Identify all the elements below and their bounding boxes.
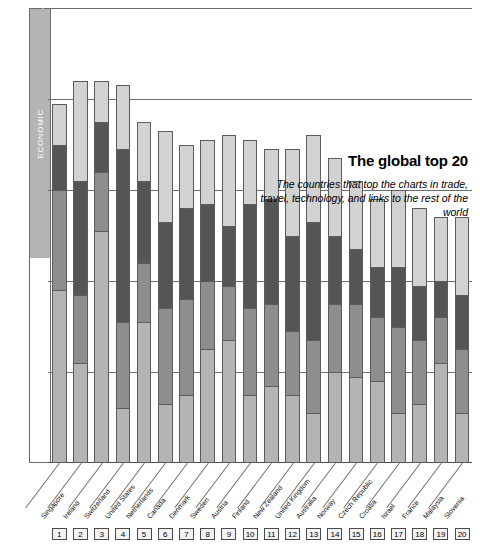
bar-israel bbox=[391, 8, 406, 463]
bar-segment-economic bbox=[328, 372, 343, 463]
rank-badge: 10 bbox=[243, 528, 258, 540]
country-label: Slovenia bbox=[443, 495, 466, 520]
bar-segment-economic bbox=[222, 340, 237, 463]
bar-segment-personal bbox=[222, 286, 237, 341]
country-label: Denmark bbox=[167, 494, 191, 520]
rank-badge: 11 bbox=[264, 528, 279, 540]
bar-segment-personal bbox=[412, 340, 427, 404]
rank-badge: 1 bbox=[52, 528, 67, 540]
bar-czech-republic bbox=[349, 8, 364, 463]
bar-segment-political bbox=[137, 122, 152, 181]
bar-segment-political bbox=[158, 131, 173, 222]
bar-switzerland bbox=[94, 8, 109, 463]
bar-slovenia bbox=[455, 8, 470, 463]
global-top-20-chart: POLITICALTECHNOLOGICALPERSONALECONOMIC S… bbox=[0, 0, 480, 549]
bar-segment-personal bbox=[285, 331, 300, 395]
rank-badge: 17 bbox=[391, 528, 406, 540]
rank-badge: 12 bbox=[285, 528, 300, 540]
bar-australia bbox=[306, 8, 321, 463]
bar-segment-political bbox=[73, 81, 88, 181]
bar-malaysia bbox=[434, 8, 449, 463]
rank-badge: 3 bbox=[94, 528, 109, 540]
bar-segment-personal bbox=[455, 349, 470, 413]
rank-badge: 14 bbox=[327, 528, 342, 540]
bar-singapore bbox=[52, 8, 67, 463]
country-label: Malaysia bbox=[422, 494, 445, 520]
bar-segment-economic bbox=[285, 395, 300, 463]
bar-segment-economic bbox=[158, 404, 173, 463]
rank-badge: 8 bbox=[200, 528, 215, 540]
bar-new-zealand bbox=[264, 8, 279, 463]
bar-segment-political bbox=[412, 208, 427, 285]
bar-segment-personal bbox=[434, 317, 449, 363]
bar-segment-economic bbox=[52, 290, 67, 463]
bar-segment-economic bbox=[434, 363, 449, 463]
country-label: Sweden bbox=[188, 496, 210, 520]
bar-sweden bbox=[200, 8, 215, 463]
bar-finland bbox=[243, 8, 258, 463]
bar-segment-personal bbox=[243, 308, 258, 394]
bar-segment-technological bbox=[222, 226, 237, 285]
bar-segment-technological bbox=[52, 145, 67, 191]
bar-segment-technological bbox=[412, 286, 427, 341]
bar-segment-economic bbox=[137, 322, 152, 463]
bar-segment-technological bbox=[137, 181, 152, 263]
rank-badge: 13 bbox=[306, 528, 321, 540]
bar-segment-economic bbox=[391, 413, 406, 463]
rank-badge: 9 bbox=[221, 528, 236, 540]
bar-segment-economic bbox=[94, 231, 109, 463]
bar-segment-political bbox=[52, 104, 67, 145]
bar-segment-personal bbox=[94, 172, 109, 231]
bar-segment-technological bbox=[328, 236, 343, 304]
bar-segment-technological bbox=[370, 267, 385, 317]
bar-segment-economic bbox=[73, 363, 88, 463]
bar-segment-personal bbox=[116, 322, 131, 408]
rank-badge: 4 bbox=[115, 528, 130, 540]
bar-segment-technological bbox=[243, 204, 258, 309]
bar-segment-personal bbox=[179, 299, 194, 395]
rank-badge: 5 bbox=[137, 528, 152, 540]
bar-segment-economic bbox=[264, 386, 279, 463]
bar-segment-personal bbox=[200, 281, 215, 349]
country-label: Canada bbox=[146, 497, 167, 520]
page-subtitle: The countries that top the charts in tra… bbox=[254, 177, 468, 219]
bar-segment-technological bbox=[434, 281, 449, 317]
bar-segment-economic bbox=[200, 349, 215, 463]
bar-segment-personal bbox=[73, 295, 88, 363]
gridline bbox=[48, 281, 472, 282]
country-label: Australia bbox=[294, 495, 317, 520]
bar-segment-personal bbox=[158, 308, 173, 404]
rank-badge: 20 bbox=[455, 528, 470, 540]
gridline bbox=[48, 8, 472, 9]
bar-segment-personal bbox=[264, 304, 279, 386]
bar-segment-technological bbox=[391, 267, 406, 326]
bar-segment-economic bbox=[370, 381, 385, 463]
bar-segment-economic bbox=[179, 395, 194, 463]
rank-badge: 19 bbox=[433, 528, 448, 540]
rank-badge: 18 bbox=[412, 528, 427, 540]
rank-badge: 15 bbox=[349, 528, 364, 540]
bar-canada bbox=[158, 8, 173, 463]
bar-segment-economic bbox=[306, 413, 321, 463]
bar-segment-political bbox=[179, 145, 194, 209]
bar-segment-political bbox=[94, 81, 109, 122]
rank-badge: 16 bbox=[370, 528, 385, 540]
bar-segment-technological bbox=[455, 295, 470, 350]
bar-segment-personal bbox=[391, 327, 406, 413]
bar-segment-technological bbox=[73, 181, 88, 295]
bar-segment-political bbox=[222, 135, 237, 226]
bar-segment-economic bbox=[243, 395, 258, 463]
bar-segment-technological bbox=[158, 222, 173, 308]
gridline bbox=[48, 372, 472, 373]
bar-segment-technological bbox=[306, 222, 321, 340]
country-label: Croatia bbox=[358, 498, 378, 520]
bar-segment-personal bbox=[370, 317, 385, 381]
plot-area bbox=[48, 8, 472, 463]
rank-badge: 6 bbox=[158, 528, 173, 540]
category-axis: Singapore1Ireland2Switzerland3United Sta… bbox=[48, 463, 472, 549]
page-title: The global top 20 bbox=[348, 152, 468, 169]
bar-france bbox=[412, 8, 427, 463]
bar-segment-economic bbox=[455, 413, 470, 463]
bar-segment-personal bbox=[137, 263, 152, 322]
bar-segment-personal bbox=[328, 304, 343, 372]
